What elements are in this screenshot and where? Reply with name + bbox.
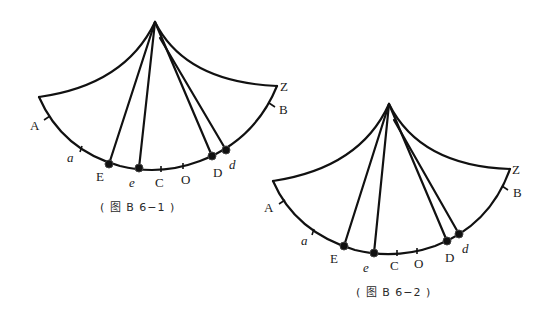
fig1-caption: ( 图 B 6−1 ) [100, 201, 175, 214]
fig1-point-e [135, 164, 143, 172]
fig1-right-curve [155, 22, 277, 86]
fig1-tick-A [44, 116, 50, 120]
fig2-label-B: B [513, 185, 522, 200]
figure-1: A a E e C O D d B Z ( 图 B 6−1 ) [30, 22, 288, 214]
fig1-point-E [105, 160, 113, 168]
fig1-label-d: d [229, 157, 236, 172]
fig2-point-D [443, 237, 451, 245]
fig1-tick-B [269, 103, 275, 107]
fig1-spoke-d [160, 38, 226, 150]
fig2-label-Z: Z [512, 162, 520, 177]
fig2-point-d [455, 230, 463, 238]
fig2-spoke-d [394, 120, 459, 234]
fig2-label-A: A [264, 200, 274, 215]
fig1-label-A: A [30, 118, 40, 133]
fig1-point-d [222, 146, 230, 154]
fig1-label-O: O [181, 172, 190, 187]
figure-2: A a E e C O D d B Z ( 图 B 6−2 ) [264, 104, 522, 299]
fig1-label-e: e [129, 175, 135, 190]
fig1-label-C: C [155, 175, 164, 190]
fig1-bottom-arc [39, 86, 277, 170]
fig2-label-a: a [301, 233, 308, 248]
fig2-label-e: e [363, 260, 369, 275]
fig1-label-D: D [213, 165, 222, 180]
fig1-label-Z: Z [280, 79, 288, 94]
fig2-label-O: O [414, 256, 423, 271]
fig2-left-curve [273, 104, 389, 181]
fig2-point-E [340, 242, 348, 250]
fig2-bottom-arc [273, 169, 510, 254]
fig2-label-D: D [445, 250, 454, 265]
fig2-caption: ( 图 B 6−2 ) [356, 286, 431, 299]
diagram-canvas: A a E e C O D d B Z ( 图 B 6−1 ) A a E e … [0, 0, 547, 316]
fig2-label-E: E [330, 251, 338, 266]
fig1-point-D [208, 152, 216, 160]
fig1-label-a: a [67, 150, 74, 165]
fig2-point-e [370, 249, 378, 257]
fig2-right-curve [389, 104, 510, 169]
fig1-label-E: E [96, 169, 104, 184]
fig1-label-B: B [279, 102, 288, 117]
fig2-label-C: C [390, 258, 399, 273]
fig1-left-curve [39, 22, 155, 97]
fig2-label-d: d [462, 241, 469, 256]
